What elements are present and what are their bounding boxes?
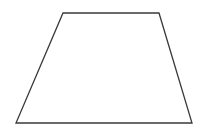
trapezoid-figure — [0, 0, 203, 131]
trapezoid-shape — [16, 13, 192, 123]
diagram-canvas — [0, 0, 203, 131]
